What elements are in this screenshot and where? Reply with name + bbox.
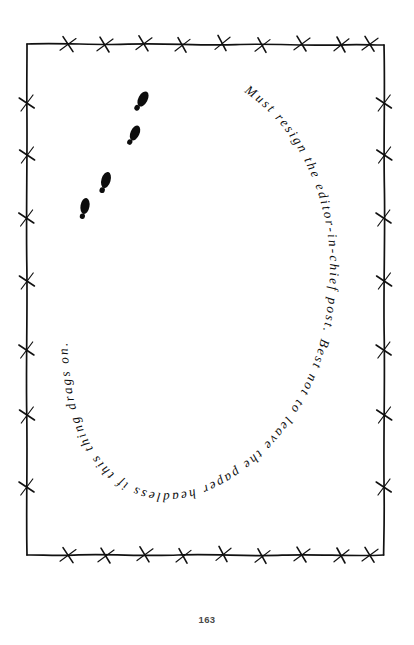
page-number: 163 — [0, 614, 414, 625]
wire-lines — [26, 43, 384, 555]
curved-inscription-text: Must resign the editor-in-chief post. Be… — [55, 82, 342, 506]
wire-barbs — [19, 35, 392, 563]
page-artwork: Must resign the editor-in-chief post. Be… — [0, 0, 414, 645]
book-page: Must resign the editor-in-chief post. Be… — [0, 0, 414, 645]
barbed-wire-frame — [0, 0, 414, 645]
inscription-textpath: Must resign the editor-in-chief post. Be… — [55, 82, 342, 506]
shoe-prints-trail — [78, 90, 151, 220]
